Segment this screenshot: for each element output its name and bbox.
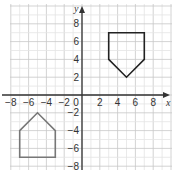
y-tick-label: 4: [73, 54, 79, 65]
x-tick-label: 2: [97, 97, 103, 108]
y-tick-label: −2: [68, 107, 80, 118]
x-tick-label: −4: [41, 97, 53, 108]
y-axis-label: y: [73, 3, 79, 14]
y-tick-label: −6: [68, 143, 80, 154]
y-tick-label: 8: [73, 18, 79, 29]
x-tick-label: 6: [133, 97, 139, 108]
y-axis-arrow-icon: [79, 6, 85, 13]
tick-labels: −8−6−4−2024688642−2−4−6−8: [5, 18, 156, 170]
y-tick-label: −8: [68, 161, 80, 170]
x-tick-label: −6: [23, 97, 35, 108]
x-axis-label: x: [165, 97, 171, 108]
y-tick-label: 2: [73, 72, 79, 83]
x-tick-label: 8: [150, 97, 156, 108]
x-tick-label: −8: [5, 97, 17, 108]
coordinate-plane: x y −8−6−4−2024688642−2−4−6−8: [0, 0, 172, 170]
y-tick-label: 6: [73, 36, 79, 47]
x-tick-label: 4: [115, 97, 121, 108]
grid: [10, 4, 172, 170]
y-tick-label: −4: [68, 125, 80, 136]
